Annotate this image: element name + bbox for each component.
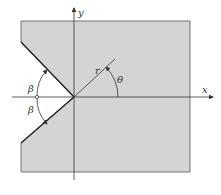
beta-label-bottom: β bbox=[27, 104, 34, 115]
notch-diagram: x y r θ β β bbox=[0, 0, 221, 195]
y-axis-label: y bbox=[77, 7, 84, 18]
plate-region bbox=[21, 21, 190, 172]
beta-arc-bottom bbox=[37, 97, 47, 124]
beta-arc-top bbox=[37, 70, 47, 97]
beta-arc-origin-point bbox=[35, 95, 38, 98]
beta-label-top: β bbox=[27, 83, 34, 94]
theta-label: θ bbox=[117, 74, 123, 85]
x-axis-label: x bbox=[202, 84, 208, 95]
